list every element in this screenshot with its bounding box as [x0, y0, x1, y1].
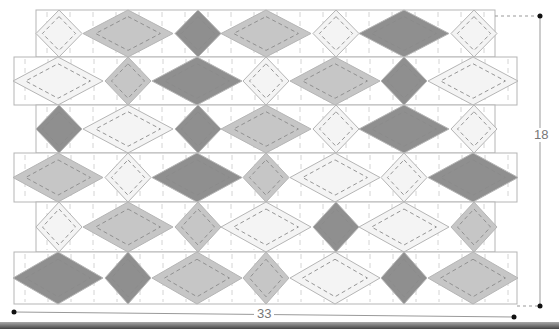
dimension-dot-top: [538, 14, 543, 19]
dimension-dot-right: [512, 315, 517, 320]
dimension-dot-bottom: [538, 304, 543, 309]
height-dimension-label: 18: [531, 128, 551, 142]
quilt-rows: [13, 10, 518, 304]
page-edge-bar: [0, 322, 559, 329]
dimension-dot-left: [12, 310, 17, 315]
quilt-row: [13, 252, 518, 304]
quilt-diagram: [0, 0, 559, 329]
quilt-row: [13, 57, 518, 105]
quilt-row: [36, 202, 497, 252]
quilt-row: [36, 105, 497, 153]
quilt-row: [13, 153, 518, 202]
width-dimension-label: 33: [254, 307, 274, 321]
quilt-row: [36, 10, 497, 57]
